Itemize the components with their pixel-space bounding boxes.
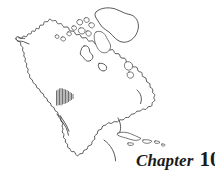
central-america-tail [104, 140, 116, 161]
hispaniola-outline [143, 140, 152, 144]
chapter-number: 10 [199, 147, 215, 171]
cuba-outline [117, 132, 141, 140]
arctic-island-1 [77, 20, 83, 25]
lesser-antilles-outline [161, 144, 165, 146]
arctic-island-9 [55, 35, 59, 39]
arctic-island-4 [72, 26, 77, 30]
puerto-rico-outline [154, 141, 160, 144]
arctic-island-3 [89, 23, 95, 28]
nova-scotia-outline [127, 72, 134, 78]
jamaica-outline [127, 143, 133, 146]
chapter-opener-page: Chapter10 [0, 0, 215, 180]
arctic-island-6 [67, 32, 72, 36]
arctic-island-5 [78, 28, 85, 34]
arctic-island-2 [84, 18, 89, 23]
arctic-island-7 [86, 31, 91, 36]
chapter-word: Chapter [136, 151, 193, 170]
chapter-label: Chapter10 [136, 149, 215, 170]
newfoundland-outline [124, 62, 132, 71]
arctic-island-8 [61, 37, 66, 41]
